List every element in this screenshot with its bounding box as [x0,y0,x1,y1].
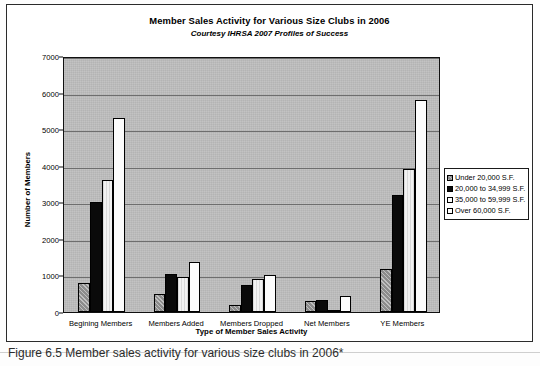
bar [241,285,253,312]
y-axis: Number of Members 0100020003000400050006… [7,57,63,313]
bar-group [154,58,201,312]
bar [305,301,317,312]
bar-group [305,58,352,312]
bar [189,262,201,312]
y-axis-tick-label: 2000 [42,235,59,244]
figure-page: Member Sales Activity for Various Size C… [0,0,540,366]
chart-legend: Under 20,000 S.F.20,000 to 34,999 S.F.35… [444,168,529,220]
y-axis-tick-label: 4000 [42,162,59,171]
bar [340,296,352,312]
y-axis-tick-label: 3000 [42,199,59,208]
legend-label: Under 20,000 S.F. [455,173,515,182]
bar-group [380,58,427,312]
plot-wrapper [63,57,440,313]
bar [392,195,404,312]
title-block: Member Sales Activity for Various Size C… [7,15,532,40]
bar [229,305,241,312]
figure-caption: Figure 6.5 Member sales activity for var… [8,346,528,360]
bar [252,279,264,312]
bar [78,283,90,312]
bar [415,100,427,312]
y-axis-tick-label: 1000 [42,272,59,281]
legend-swatch-icon [447,208,453,214]
legend-swatch-icon [447,175,453,181]
bar [328,310,340,312]
bar [102,180,114,312]
legend-swatch-icon [447,186,453,192]
bar-series-container [64,58,439,312]
y-axis-tick-label: 6000 [42,89,59,98]
chart-subtitle: Courtesy IHRSA 2007 Profiles of Success [7,28,532,40]
legend-label: 20,000 to 34,999 S.F. [455,184,525,193]
bar [403,169,415,312]
chart-figure: Member Sales Activity for Various Size C… [6,4,533,342]
bar [177,277,189,312]
bar [165,274,177,312]
bar [380,269,392,312]
legend-label: 35,000 to 59,999 S.F. [455,195,525,204]
plot-area [63,57,440,313]
bar-group [78,58,125,312]
bar [154,294,166,312]
legend-label: Over 60,000 S.F. [455,206,510,215]
y-axis-label: Number of Members [23,110,32,270]
chart-title: Member Sales Activity for Various Size C… [7,15,532,27]
bar [113,118,125,312]
legend-swatch-icon [447,197,453,203]
legend-item: 35,000 to 59,999 S.F. [447,194,525,205]
bar-group [229,58,276,312]
legend-item: Under 20,000 S.F. [447,172,525,183]
legend-item: 20,000 to 34,999 S.F. [447,183,525,194]
bar [264,275,276,312]
legend-item: Over 60,000 S.F. [447,205,525,216]
bar [90,202,102,312]
y-axis-tick-label: 7000 [42,53,59,62]
x-axis-label: Type of Member Sales Activity [63,327,440,336]
y-axis-tick-label: 5000 [42,126,59,135]
bar [316,300,328,312]
